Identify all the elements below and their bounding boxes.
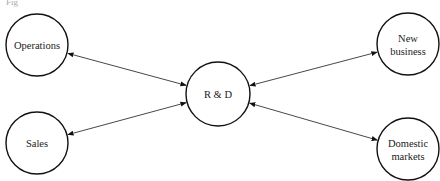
node-new-business: Newbusiness xyxy=(377,13,439,75)
edge-sales-rd xyxy=(68,103,186,135)
relationship-diagram: Fig R & DOperationsSalesNewbusinessDomes… xyxy=(0,0,440,181)
top-cut-text: Fig xyxy=(6,0,19,7)
node-sales-label: Sales xyxy=(26,138,48,149)
edge-operations-rd xyxy=(68,53,186,85)
node-new-business-label: New xyxy=(398,33,418,44)
node-domestic-markets-circle xyxy=(377,118,439,180)
nodes-group: R & DOperationsSalesNewbusinessDomesticm… xyxy=(6,13,439,180)
node-domestic-markets: Domesticmarkets xyxy=(377,118,439,180)
node-new-business-circle xyxy=(377,13,439,75)
edge-domestic-markets-rd xyxy=(250,103,378,140)
node-operations-label: Operations xyxy=(14,40,60,51)
node-domestic-markets-label: Domestic xyxy=(388,138,429,149)
node-rd-label: R & D xyxy=(204,89,232,100)
node-operations: Operations xyxy=(6,14,68,76)
edge-new-business-rd xyxy=(250,52,377,85)
node-domestic-markets-label: markets xyxy=(391,151,424,162)
node-rd: R & D xyxy=(186,62,250,126)
node-new-business-label: business xyxy=(390,46,426,57)
node-sales: Sales xyxy=(6,112,68,174)
